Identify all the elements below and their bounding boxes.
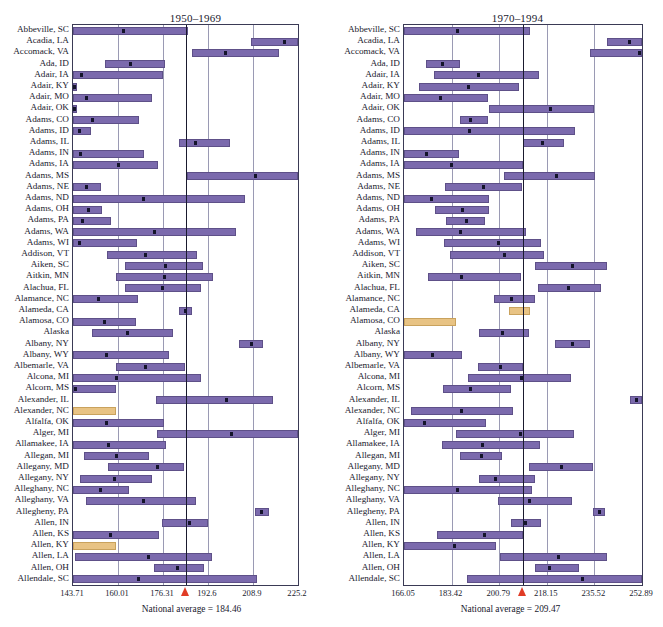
mean-marker bbox=[254, 174, 257, 178]
x-tick-label: 143.71 bbox=[60, 588, 84, 598]
category-label: Alamance, NC bbox=[345, 294, 400, 303]
range-bar bbox=[73, 116, 139, 124]
mean-marker bbox=[144, 253, 147, 257]
mean-marker bbox=[81, 219, 84, 223]
category-labels-left: Abbeville, SCAcadia, LAAccomack, VAAda, … bbox=[0, 24, 69, 584]
mean-marker bbox=[184, 309, 187, 313]
mean-marker bbox=[153, 230, 156, 234]
category-label: Allegan, MI bbox=[355, 451, 400, 460]
mean-marker bbox=[74, 387, 77, 391]
mean-marker bbox=[224, 51, 227, 55]
category-label: Allegany, MD bbox=[17, 462, 69, 471]
mean-marker bbox=[501, 331, 504, 335]
category-label: Alger, MI bbox=[364, 428, 400, 437]
range-bar bbox=[450, 251, 544, 259]
mean-marker bbox=[260, 510, 263, 514]
range-bar bbox=[498, 497, 572, 505]
mean-marker bbox=[430, 197, 433, 201]
category-label: Allegany, MD bbox=[348, 462, 400, 471]
mean-marker bbox=[107, 443, 110, 447]
category-label: Accomack, VA bbox=[344, 47, 400, 56]
range-bar bbox=[479, 329, 528, 337]
mean-marker bbox=[163, 275, 166, 279]
mean-marker bbox=[105, 421, 108, 425]
range-bar bbox=[73, 239, 137, 247]
category-label: Alachua, FL bbox=[354, 283, 400, 292]
range-bar bbox=[73, 575, 257, 583]
range-bar bbox=[460, 116, 489, 124]
category-label: Adams, ND bbox=[25, 193, 69, 202]
mean-marker bbox=[581, 577, 584, 581]
category-label: Albemarle, VA bbox=[345, 361, 400, 370]
mean-marker bbox=[638, 51, 641, 55]
category-label: Adams, WA bbox=[24, 227, 69, 236]
category-label: Adams, NE bbox=[26, 182, 69, 191]
category-label: Alexander, NC bbox=[14, 406, 69, 415]
range-bar bbox=[73, 27, 188, 35]
mean-marker bbox=[482, 185, 485, 189]
panel-title-left: 1950–1969 bbox=[0, 12, 331, 24]
mean-marker bbox=[80, 73, 83, 77]
mean-marker bbox=[85, 185, 88, 189]
range-bar bbox=[73, 419, 164, 427]
x-tick-label: 183.42 bbox=[439, 588, 463, 598]
mean-marker bbox=[467, 85, 470, 89]
category-label: Alleghany, VA bbox=[15, 495, 69, 504]
category-label: Alameda, CA bbox=[349, 305, 400, 314]
mean-marker bbox=[541, 141, 544, 145]
category-label: Alexander, IL bbox=[349, 395, 400, 404]
range-bar bbox=[73, 531, 159, 539]
range-bar bbox=[73, 295, 138, 303]
category-label: Allamakee, IA bbox=[346, 439, 400, 448]
range-bar bbox=[590, 49, 642, 57]
range-bar bbox=[500, 553, 607, 561]
figure-root: 1950–1969 Abbeville, SCAcadia, LAAccomac… bbox=[0, 0, 663, 627]
category-label: Alaska bbox=[43, 327, 69, 336]
range-bar bbox=[92, 329, 173, 337]
range-bar bbox=[428, 273, 521, 281]
category-label: Allen, KS bbox=[32, 529, 69, 538]
category-label: Acadia, LA bbox=[357, 36, 400, 45]
category-label: Abbeville, SC bbox=[17, 25, 69, 34]
mean-marker bbox=[122, 29, 125, 33]
mean-marker bbox=[557, 555, 560, 559]
mean-marker bbox=[147, 555, 150, 559]
mean-marker bbox=[117, 163, 120, 167]
x-tick-label: 218.15 bbox=[534, 588, 558, 598]
gridline bbox=[253, 25, 254, 585]
range-bar bbox=[73, 217, 111, 225]
category-label: Ada, ID bbox=[370, 59, 400, 68]
range-bar bbox=[535, 564, 578, 572]
category-label: Adams, ID bbox=[29, 126, 69, 135]
category-label: Allendale, SC bbox=[17, 574, 69, 583]
category-label: Adams, IL bbox=[361, 137, 400, 146]
mean-marker bbox=[78, 241, 81, 245]
range-bar bbox=[73, 542, 116, 550]
mean-marker bbox=[73, 85, 76, 89]
category-label: Alexander, NC bbox=[345, 406, 400, 415]
mean-marker bbox=[453, 544, 456, 548]
category-label: Alamosa, CO bbox=[350, 316, 400, 325]
category-label: Adair, IA bbox=[365, 70, 400, 79]
mean-marker bbox=[635, 398, 638, 402]
category-label: Alleghany, VA bbox=[346, 495, 400, 504]
category-label: Albany, NY bbox=[356, 339, 400, 348]
category-label: Aitkin, MN bbox=[357, 271, 400, 280]
mean-marker bbox=[87, 208, 90, 212]
range-bar bbox=[404, 127, 575, 135]
category-label: Alcona, MI bbox=[358, 372, 400, 381]
category-label: Adams, ND bbox=[356, 193, 400, 202]
mean-marker bbox=[456, 488, 459, 492]
category-label: Allegheny, PA bbox=[16, 507, 69, 516]
category-label: Allen, IN bbox=[365, 518, 400, 527]
range-bar bbox=[73, 385, 116, 393]
mean-marker bbox=[99, 488, 102, 492]
mean-marker bbox=[85, 96, 88, 100]
mean-marker bbox=[441, 62, 444, 66]
mean-marker bbox=[480, 454, 483, 458]
category-label: Albany, WY bbox=[354, 350, 400, 359]
mean-marker bbox=[567, 286, 570, 290]
mean-marker bbox=[456, 29, 459, 33]
mean-marker bbox=[469, 387, 472, 391]
mean-marker bbox=[460, 275, 463, 279]
